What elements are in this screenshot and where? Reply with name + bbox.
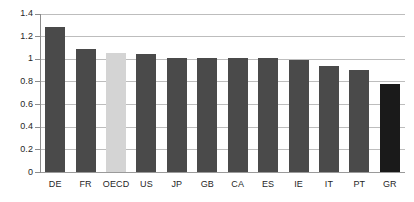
y-axis-tick-label: 0 — [0, 168, 33, 177]
bar-chart: 00.20.40.60.811.21.4 DEFROECDUSJPGBCAESI… — [0, 0, 414, 202]
x-axis-tick-label: FR — [70, 180, 100, 189]
y-axis-tick-label: 0.2 — [0, 145, 33, 154]
bar-us — [136, 54, 156, 172]
x-axis-tick-label: GB — [192, 180, 222, 189]
x-axis-baseline — [40, 172, 405, 173]
bar-gr — [380, 84, 400, 172]
x-axis-tick-label: DE — [40, 180, 70, 189]
y-axis-tick-label: 1 — [0, 54, 33, 63]
y-axis-tick-label: 0.6 — [0, 100, 33, 109]
y-axis-tick-label: 1.4 — [0, 9, 33, 18]
bar-jp — [167, 58, 187, 172]
bar-oecd — [106, 53, 126, 172]
x-axis-tick-label: IE — [283, 180, 313, 189]
y-axis-tick-label: 0.4 — [0, 122, 33, 131]
x-axis-tick-label: JP — [162, 180, 192, 189]
bar-gb — [197, 58, 217, 172]
y-axis-tick-label: 0.8 — [0, 77, 33, 86]
bar-it — [319, 66, 339, 172]
bar-es — [258, 58, 278, 172]
bar-ie — [289, 60, 309, 172]
bar-pt — [349, 70, 369, 172]
x-axis-tick-label: PT — [344, 180, 374, 189]
x-axis-tick-label: GR — [375, 180, 405, 189]
bar-ca — [228, 58, 248, 172]
x-axis-tick-label: IT — [314, 180, 344, 189]
gridline — [40, 14, 405, 15]
plot-area — [40, 14, 405, 173]
x-axis-tick-label: CA — [223, 180, 253, 189]
y-axis-tick-label: 1.2 — [0, 32, 33, 41]
x-axis-tick-label: OECD — [101, 180, 131, 189]
x-axis-tick-label: US — [131, 180, 161, 189]
x-axis-tick-label: ES — [253, 180, 283, 189]
gridline — [40, 36, 405, 37]
bar-fr — [76, 49, 96, 172]
bar-de — [45, 27, 65, 172]
y-axis-line — [40, 14, 41, 173]
